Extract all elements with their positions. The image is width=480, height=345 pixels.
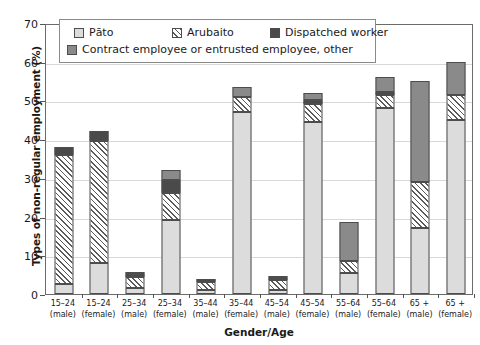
bar-segment-dispatched[interactable] xyxy=(126,274,145,276)
legend-label: Arubaito xyxy=(187,26,234,39)
bar-segment-contract[interactable] xyxy=(126,272,145,275)
legend-item-arubaito[interactable]: Arubaito xyxy=(172,26,234,39)
bar-segment-pato[interactable] xyxy=(304,122,323,294)
legend-row: Contract employee or entrusted employee,… xyxy=(67,41,369,58)
bar-segment-pato[interactable] xyxy=(375,108,394,294)
bar-segment-arubaito[interactable] xyxy=(233,97,252,112)
bar-segment-arubaito[interactable] xyxy=(268,280,287,290)
bar-group[interactable] xyxy=(331,25,367,294)
bar-segment-arubaito[interactable] xyxy=(304,104,323,121)
chart-legend: PātoArubaitoDispatched workerContract em… xyxy=(59,19,376,63)
bar-group[interactable] xyxy=(403,25,439,294)
bar-segment-arubaito[interactable] xyxy=(197,282,216,290)
y-tick-label: 10 xyxy=(16,250,38,263)
bar-segment-pato[interactable] xyxy=(126,288,145,294)
y-tick-label: 50 xyxy=(16,95,38,108)
x-tick-age: 65 + xyxy=(434,298,476,309)
y-tick-label: 70 xyxy=(16,18,38,31)
bar-segment-arubaito[interactable] xyxy=(447,95,466,120)
bar-group[interactable] xyxy=(189,25,225,294)
bar-segment-pato[interactable] xyxy=(447,120,466,294)
y-tick-mark xyxy=(40,295,45,296)
bar-group[interactable] xyxy=(367,25,403,294)
bar-group[interactable] xyxy=(117,25,153,294)
y-tick-label: 0 xyxy=(16,289,38,302)
bar-group[interactable] xyxy=(438,25,474,294)
bar-segment-dispatched[interactable] xyxy=(375,92,394,95)
bar-segment-dispatched[interactable] xyxy=(161,180,180,194)
y-axis-tick-labels: 010203040506070 xyxy=(14,0,38,345)
legend-item-pato[interactable]: Pāto xyxy=(74,26,113,39)
bar-segment-arubaito[interactable] xyxy=(340,261,359,273)
bar-group[interactable] xyxy=(260,25,296,294)
bar-segment-pato[interactable] xyxy=(197,290,216,294)
bar-segment-contract[interactable] xyxy=(233,87,252,97)
bar-segment-pato[interactable] xyxy=(90,263,109,294)
legend-item-contract[interactable]: Contract employee or entrusted employee,… xyxy=(67,43,353,56)
legend-swatch-contract-icon xyxy=(67,45,77,55)
bar-segment-contract[interactable] xyxy=(340,222,359,261)
stacked-bar-chart: Types of non-regular employment (%) 0102… xyxy=(0,0,480,345)
bar-segment-pato[interactable] xyxy=(340,273,359,294)
legend-label: Contract employee or entrusted employee,… xyxy=(82,43,353,56)
bar-segment-dispatched[interactable] xyxy=(304,100,323,104)
bar-segment-dispatched[interactable] xyxy=(197,279,216,283)
bar-segment-pato[interactable] xyxy=(268,290,287,294)
bar-segment-pato[interactable] xyxy=(161,220,180,294)
legend-label: Dispatched worker xyxy=(285,26,388,39)
legend-swatch-arubaito-icon xyxy=(172,28,182,38)
x-tick-sex: (female) xyxy=(434,309,476,320)
y-tick-label: 20 xyxy=(16,211,38,224)
legend-row: PātoArubaitoDispatched worker xyxy=(67,24,369,41)
bar-group[interactable] xyxy=(153,25,189,294)
plot-area xyxy=(45,24,473,295)
y-tick-label: 30 xyxy=(16,172,38,185)
x-axis-title: Gender/Age xyxy=(45,326,473,338)
bar-segment-contract[interactable] xyxy=(304,93,323,101)
y-tick-label: 40 xyxy=(16,134,38,147)
bar-group[interactable] xyxy=(46,25,82,294)
x-tick-label: 65 +(female) xyxy=(434,298,476,320)
x-axis-tick-labels: 15–24(male)15–24(female)25–34(male)25–34… xyxy=(45,298,473,328)
legend-swatch-pato-icon xyxy=(74,28,84,38)
bar-group[interactable] xyxy=(296,25,332,294)
bar-segment-arubaito[interactable] xyxy=(126,277,145,289)
legend-label: Pāto xyxy=(89,26,113,39)
y-tick-label: 60 xyxy=(16,56,38,69)
bar-segment-pato[interactable] xyxy=(54,284,73,294)
bar-segment-arubaito[interactable] xyxy=(161,193,180,220)
bar-segment-dispatched[interactable] xyxy=(54,147,73,155)
bar-group[interactable] xyxy=(82,25,118,294)
bar-group[interactable] xyxy=(224,25,260,294)
legend-swatch-dispatched-icon xyxy=(270,28,280,38)
bar-segment-dispatched[interactable] xyxy=(268,278,287,280)
bar-segment-contract[interactable] xyxy=(268,276,287,278)
bar-segment-pato[interactable] xyxy=(411,228,430,294)
bar-segment-contract[interactable] xyxy=(447,62,466,95)
bar-series-container xyxy=(46,25,472,294)
bar-segment-dispatched[interactable] xyxy=(90,131,109,141)
bar-segment-contract[interactable] xyxy=(411,81,430,182)
bar-segment-arubaito[interactable] xyxy=(375,95,394,109)
bar-segment-arubaito[interactable] xyxy=(54,155,73,285)
bar-segment-arubaito[interactable] xyxy=(90,141,109,263)
bar-segment-arubaito[interactable] xyxy=(411,182,430,228)
bar-segment-contract[interactable] xyxy=(161,170,180,180)
legend-item-dispatched[interactable]: Dispatched worker xyxy=(270,26,388,39)
bar-segment-pato[interactable] xyxy=(233,112,252,294)
bar-segment-contract[interactable] xyxy=(375,77,394,91)
